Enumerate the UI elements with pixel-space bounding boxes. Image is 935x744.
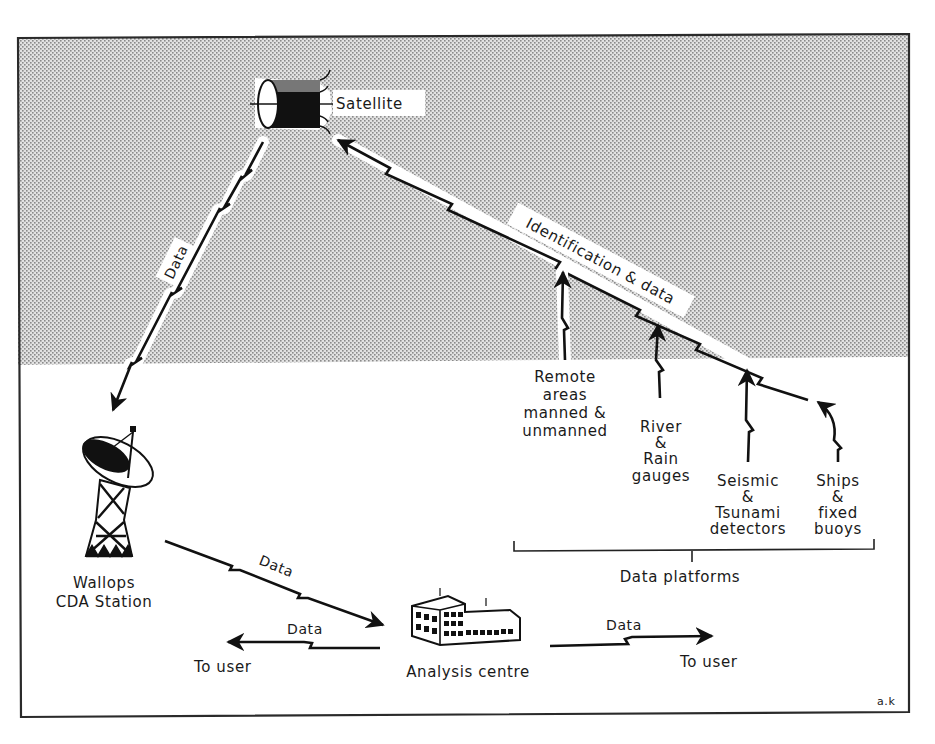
user-right-label: To user xyxy=(679,653,738,671)
platform-remote: Remote areas manned & unmanned xyxy=(522,368,607,440)
svg-text:gauges: gauges xyxy=(632,467,690,485)
satellite-data-collection-diagram: Satellite Data Identification & data Rem… xyxy=(0,0,935,744)
svg-text:detectors: detectors xyxy=(710,520,787,538)
analysis-centre-label: Analysis centre xyxy=(406,663,530,681)
centre-to-user-left-label: Data xyxy=(287,621,323,637)
svg-text:unmanned: unmanned xyxy=(522,422,607,440)
svg-text:manned &: manned & xyxy=(524,404,607,422)
station-label-line1: Wallops xyxy=(73,574,135,592)
centre-to-user-right-label: Data xyxy=(606,617,642,633)
platform-seismic: Seismic & Tsunami detectors xyxy=(710,472,787,538)
svg-text:buoys: buoys xyxy=(814,520,862,538)
svg-text:Rain: Rain xyxy=(643,450,678,468)
station-label-line2: CDA Station xyxy=(56,593,153,611)
platform-arrow-remote xyxy=(562,272,568,362)
artist-signature: a.k xyxy=(877,695,895,708)
satellite-label: Satellite xyxy=(336,95,403,113)
svg-text:areas: areas xyxy=(543,386,587,404)
sky-region xyxy=(18,34,909,365)
platforms-group-label: Data platforms xyxy=(620,568,741,586)
user-left-label: To user xyxy=(193,658,252,676)
svg-text:Remote: Remote xyxy=(534,368,595,386)
platform-ships: Ships & fixed buoys xyxy=(814,472,862,538)
